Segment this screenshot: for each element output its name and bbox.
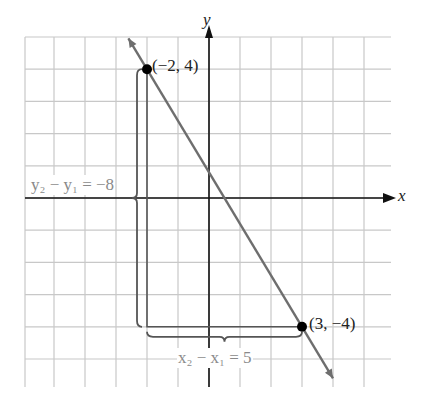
data-point <box>297 322 307 332</box>
x-axis-label: x <box>398 186 406 206</box>
point-label-1: (−2, 4) <box>152 56 198 76</box>
run-annotation: x₂ − x₁ = 5 <box>177 348 253 368</box>
y-axis-label: y <box>203 10 211 30</box>
coordinate-plane <box>0 0 421 408</box>
rise-annotation: y₂ − y₁ = −8 <box>30 175 115 195</box>
data-point <box>142 64 152 74</box>
x-axis-arrow-icon <box>383 193 396 203</box>
point-label-2: (3, −4) <box>309 314 355 334</box>
run-brace <box>147 332 302 342</box>
